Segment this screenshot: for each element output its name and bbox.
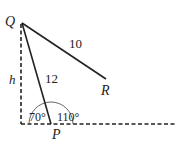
segment-qr [22, 23, 106, 79]
label-qp-length: 12 [45, 71, 58, 86]
label-qr-length: 10 [69, 36, 82, 51]
label-angle-right: 110° [57, 110, 80, 124]
label-q: Q [5, 14, 15, 29]
label-p: P [51, 127, 61, 142]
label-height: h [9, 72, 16, 87]
label-angle-left: 70° [29, 110, 46, 124]
label-r: R [100, 83, 110, 98]
triangle-diagram: Q R P 10 12 h 70° 110° [0, 0, 185, 145]
